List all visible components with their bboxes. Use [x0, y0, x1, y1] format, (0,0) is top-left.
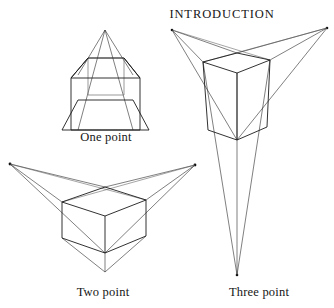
left-converging-edge [203, 62, 208, 130]
ray-left-vp-to-left-vertex [10, 164, 62, 202]
one-point-figure: One point [62, 30, 149, 144]
ground-left-line [62, 238, 105, 272]
lower-left-splay [62, 100, 78, 130]
ray-vp-to-front-bottom-right [105, 30, 133, 130]
ray3-right-vp-to-bottom-center [237, 28, 327, 140]
ray-right-vp-to-bottom-center [105, 165, 195, 253]
perspective-diagram-figure: INTRODUCTION [0, 0, 334, 308]
back-square [88, 58, 124, 95]
one-point-connecting-edges [71, 58, 140, 78]
three-point-caption: Three point [229, 285, 289, 299]
three-point-right-rays [203, 28, 327, 140]
two-point-caption: Two point [77, 285, 130, 299]
diagram-canvas: INTRODUCTION [0, 0, 334, 308]
ray-vp-to-front-top-right [105, 30, 133, 75]
one-point-outer-silhouette [71, 58, 140, 130]
one-point-caption: One point [80, 130, 132, 144]
ray3-left-vertical-to-nadir [203, 62, 237, 275]
three-point-left-rays [172, 30, 270, 140]
three-point-bottom-rays [203, 60, 270, 275]
bottom-front-edges [62, 236, 146, 253]
two-point-bottom-edges [62, 236, 146, 253]
top-face-rhombus [62, 187, 146, 216]
ray-right-vp-through-left-vertex [62, 165, 195, 202]
ray-left-vp-to-bottom-center [10, 164, 105, 253]
three-point-figure: Three point [171, 27, 329, 299]
ray-vp-to-front-bottom-left [78, 30, 105, 130]
outer-top-chamfer [71, 58, 140, 78]
page-title: INTRODUCTION [169, 7, 274, 21]
three-point-top-face [203, 53, 270, 73]
outer-rect [71, 78, 140, 130]
lower-right-splay [133, 100, 149, 130]
one-point-rays [78, 30, 133, 130]
one-point-lower-edges [62, 100, 149, 130]
top-face-rhombus-3p [203, 53, 270, 73]
ray-right-vp-to-top-vertex [105, 165, 195, 187]
ground-right-line [105, 236, 146, 272]
two-point-top-face [62, 187, 146, 216]
ray3-right-vp-to-right-vertex [270, 28, 327, 60]
ray-right-vp-to-right-vertex [146, 165, 195, 200]
ray-vp-to-front-top-left [78, 30, 105, 75]
ray-left-vp-to-top-vertex [10, 164, 105, 187]
two-point-figure: Two point [9, 163, 197, 299]
ray3-left-vp-to-top-vertex [172, 30, 237, 53]
two-point-right-rays [62, 165, 195, 253]
two-point-vertical-edges [62, 200, 146, 253]
two-point-left-rays [10, 164, 146, 253]
ray3-right-vertical-to-nadir [237, 60, 270, 275]
one-point-back-face [88, 58, 124, 95]
